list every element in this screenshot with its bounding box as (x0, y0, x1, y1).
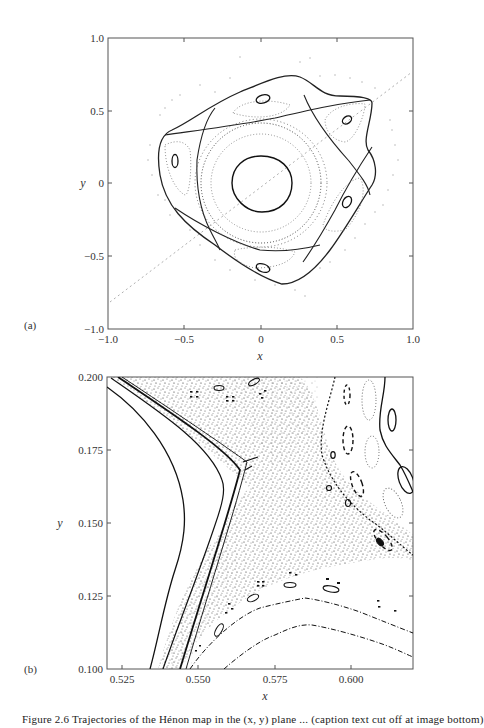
panel-a-label: (a) (24, 319, 37, 332)
panel-a: 1.0 0.5 0 −0.5 −1.0 −1.0 −0.5 0 0.5 1.0 … (24, 32, 420, 363)
panel-b-ytick: 0.200 (78, 371, 103, 383)
panel-b-xlabel: x (261, 689, 268, 703)
panel-b-xtick: 0.600 (339, 673, 364, 685)
panel-b-ytick: 0.150 (78, 517, 103, 529)
panel-b-ytick: 0.125 (78, 590, 103, 602)
panel-a-xlabel: x (256, 349, 263, 363)
panel-a-ytick: 0 (99, 177, 105, 189)
panel-a-ytick: 0.5 (90, 105, 104, 117)
panel-b-plot (107, 377, 417, 669)
panel-b-xtick: 0.550 (186, 673, 211, 685)
panel-b-xtick: 0.575 (263, 673, 288, 685)
panel-b-ytick: 0.175 (78, 444, 103, 456)
panel-a-xtick: −0.5 (174, 333, 194, 345)
panel-a-xtick: 0 (258, 333, 264, 345)
panel-a-xtick: 1.0 (406, 333, 420, 345)
panel-b: 0.200 0.175 0.150 0.125 0.100 0.525 0.55… (24, 371, 417, 703)
panel-b-ylabel: y (56, 516, 63, 530)
panel-b-label: (b) (24, 663, 37, 676)
panel-a-frame (108, 38, 413, 329)
figure-caption: Figure 2.6 Trajectories of the Hénon map… (22, 713, 442, 725)
panel-b-xtick: 0.525 (110, 673, 135, 685)
panel-a-xtick: −1.0 (98, 333, 118, 345)
panel-a-xtick: 0.5 (330, 333, 344, 345)
panel-a-ylabel: y (79, 176, 86, 190)
panel-a-ticks (108, 38, 413, 329)
panel-a-ytick: 1.0 (90, 32, 104, 44)
panel-a-plot (110, 56, 412, 302)
panel-b-ytick: 0.100 (78, 663, 103, 675)
panel-a-ytick: −0.5 (84, 250, 104, 262)
